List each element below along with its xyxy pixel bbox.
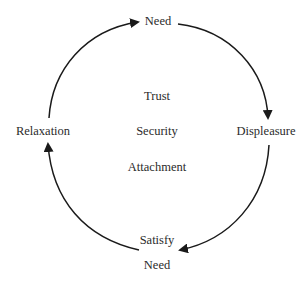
node-relaxation: Relaxation (16, 124, 70, 138)
arrow-need-to-displeasure (178, 24, 268, 118)
node-satisfy: Satisfy (140, 233, 175, 247)
arrow-relaxation-to-need (49, 22, 138, 118)
center-attachment: Attachment (128, 160, 186, 174)
node-need-top: Need (145, 14, 171, 28)
attachment-cycle-diagram: Need Displeasure Relaxation Satisfy Need… (0, 0, 308, 285)
node-need-bottom: Need (144, 258, 170, 272)
center-trust: Trust (144, 89, 170, 103)
arrow-satisfy-to-relaxation (48, 144, 139, 250)
center-security: Security (136, 124, 178, 138)
node-displeasure: Displeasure (236, 124, 295, 138)
arrow-displeasure-to-satisfy (180, 145, 269, 250)
